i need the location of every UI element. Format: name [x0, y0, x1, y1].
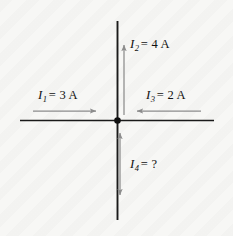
current-junction-figure: I1= 3A I2= 4A I3= 2A I4= ?: [0, 0, 233, 236]
current-unit-i3: A: [174, 88, 186, 102]
current-label-i4: I4= ?: [130, 156, 160, 173]
current-label-i1: I1= 3A: [38, 87, 78, 104]
current-unit-i1: A: [66, 88, 78, 102]
current-equals-i1: =: [48, 88, 56, 102]
current-subscript-i4: 4: [135, 163, 140, 173]
current-equals-i2: =: [140, 37, 148, 51]
current-equals-i4: =: [140, 157, 148, 171]
current-unit-i4: [157, 157, 160, 171]
current-symbol-i2: I: [130, 36, 135, 51]
current-equals-i3: =: [156, 88, 164, 102]
current-symbol-i4: I: [130, 156, 135, 171]
current-subscript-i1: 1: [43, 94, 48, 104]
junction-diagram-canvas: [0, 0, 233, 236]
current-label-i3: I3= 2A: [146, 87, 186, 104]
current-label-i2: I2= 4A: [130, 36, 170, 53]
current-symbol-i1: I: [38, 87, 43, 102]
current-unit-i2: A: [158, 37, 170, 51]
current-symbol-i3: I: [146, 87, 151, 102]
current-subscript-i2: 2: [135, 43, 140, 53]
current-subscript-i3: 3: [151, 94, 156, 104]
junction-node: [114, 117, 121, 124]
